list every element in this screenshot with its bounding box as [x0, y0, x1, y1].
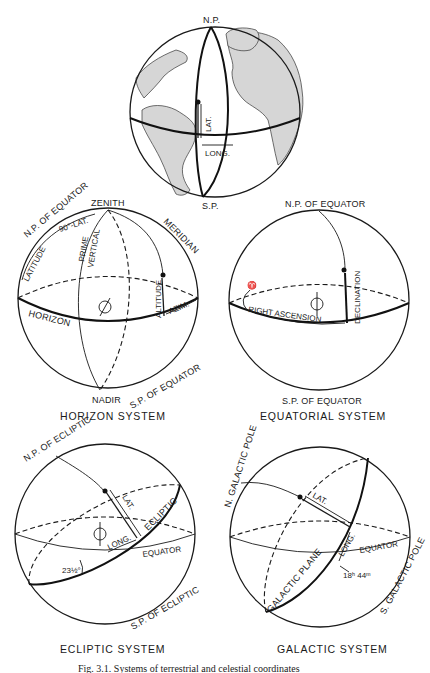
star-point [298, 495, 303, 500]
ecliptic-system-title: ECLIPTIC SYSTEM [60, 643, 165, 655]
earth-symbol-icon [99, 298, 111, 316]
galactic-system-title: GALACTIC SYSTEM [277, 643, 388, 655]
figure-caption: Fig. 3.1. Systems of terrestrial and cel… [78, 663, 300, 673]
latitude-label: LATITUDE [22, 245, 48, 283]
galactic-system: N. GALACTIC POLE LAT. LONG. EQUATOR 18ʰ … [222, 424, 427, 655]
meridian-label: MERIDIAN [162, 216, 201, 255]
ecliptic-back [29, 485, 180, 584]
great-circle-to-star [241, 482, 300, 497]
horizon-system: ZENITH NADIR N.P. OF EQUATOR 90°-LAT. LA… [18, 180, 203, 422]
vertical-circle [108, 210, 163, 275]
sp-equator-label: S.P. OF EQUATOR [282, 396, 362, 406]
ecliptic-sphere [15, 444, 195, 624]
star-point [103, 489, 108, 494]
north-america-landmass [136, 50, 187, 98]
earth-symbol-icon [94, 522, 106, 546]
node-ra-label: 18ʰ 44ᵐ [343, 571, 371, 580]
celestial-equator-back [230, 521, 410, 537]
equator-label: EQUATOR [359, 539, 399, 555]
latitude-label: LAT. [204, 117, 213, 132]
observer-meridian [203, 27, 228, 197]
coordinate-systems-figure: N.P. S.P. LAT. LONG. ZENITH NADIR N.P. O… [0, 0, 430, 673]
prime-vertical-back [100, 210, 129, 390]
horizon-system-title: HORIZON SYSTEM [60, 410, 166, 422]
longitude-label: LONG. [205, 149, 230, 158]
right-ascension-label: RIGHT ASCENSION [248, 305, 322, 324]
horizon-sphere [18, 208, 198, 388]
ecliptic-front [29, 485, 180, 584]
hour-circle [319, 211, 345, 270]
vernal-equinox-mark: ♈ [247, 280, 257, 290]
colatitude-label: 90°-LAT. [58, 216, 89, 234]
equatorial-sphere [229, 210, 409, 390]
great-circle-to-star [56, 456, 104, 491]
sp-ecliptic-label: S.P. OF ECLIPTIC [129, 584, 201, 631]
horizon-back [18, 277, 198, 299]
africa-europe-landmass [228, 32, 303, 165]
earth-symbol-icon [311, 292, 323, 316]
terrestrial-globe: N.P. S.P. LAT. LONG. [130, 15, 303, 211]
star-point [161, 273, 166, 278]
np-ecliptic-label: N.P. OF ECLIPTIC [22, 414, 93, 464]
location-point [196, 100, 201, 105]
north-pole-label: N.P. [203, 15, 220, 25]
vertical-label: VERTICAL [86, 228, 102, 268]
declination-arc [345, 273, 347, 323]
np-equator-label: N.P. OF EQUATOR [22, 180, 90, 240]
declination-label: DECLINATION [353, 271, 362, 324]
south-pole-label: S.P. [202, 201, 219, 211]
azimuth-label: AZIM. [167, 300, 190, 316]
equatorial-system-title: EQUATORIAL SYSTEM [260, 410, 386, 422]
sp-equator-label: S.P. OF EQUATOR [128, 362, 203, 411]
south-america-landmass [142, 106, 196, 196]
galactic-latitude-label: LAT. [311, 491, 329, 507]
star-point [342, 268, 347, 273]
zenith-label: ZENITH [91, 198, 125, 208]
nadir-label: NADIR [92, 395, 121, 405]
altitude-label: ALTITUDE [154, 280, 163, 318]
ecliptic-system: N.P. OF ECLIPTIC LAT. ECLIPTIC LONG. EQU… [15, 414, 201, 655]
obliquity-label: 23½° [62, 566, 81, 575]
np-equator-label: N.P. OF EQUATOR [285, 199, 366, 209]
equatorial-system: ♈ N.P. OF EQUATOR S.P. OF EQUATOR RIGHT … [229, 199, 409, 422]
